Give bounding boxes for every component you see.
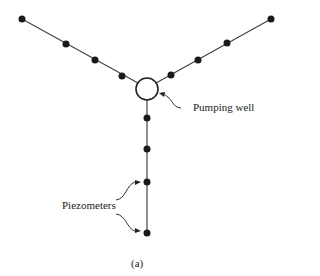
piezometer-node bbox=[63, 41, 70, 48]
pumping-well-label: Pumping well bbox=[193, 101, 254, 113]
piezometer-node bbox=[268, 16, 275, 23]
piezometer-node bbox=[119, 73, 126, 80]
piezometer-node bbox=[224, 40, 231, 47]
piezometer-arrow-lower bbox=[116, 214, 135, 231]
pumping-well-icon bbox=[136, 78, 158, 100]
piezometer-node bbox=[168, 72, 175, 79]
piezometer-node bbox=[144, 146, 151, 153]
piezometer-node bbox=[144, 179, 151, 186]
piezometer-node bbox=[195, 57, 202, 64]
well-layout-diagram bbox=[0, 0, 320, 276]
piezometer-node bbox=[144, 230, 151, 237]
piezometers-label: Piezometers bbox=[62, 199, 116, 211]
piezometer-node bbox=[144, 115, 151, 122]
figure-caption: (a) bbox=[131, 257, 143, 269]
piezometer-arrow-upper bbox=[116, 182, 135, 200]
piezometer-node bbox=[92, 57, 99, 64]
piezometer-node bbox=[19, 16, 26, 23]
arrowhead-icon bbox=[135, 228, 141, 233]
pumping-well-arrow bbox=[162, 94, 181, 108]
arrowhead-icon bbox=[135, 180, 141, 185]
arrowhead-icon bbox=[159, 92, 165, 97]
